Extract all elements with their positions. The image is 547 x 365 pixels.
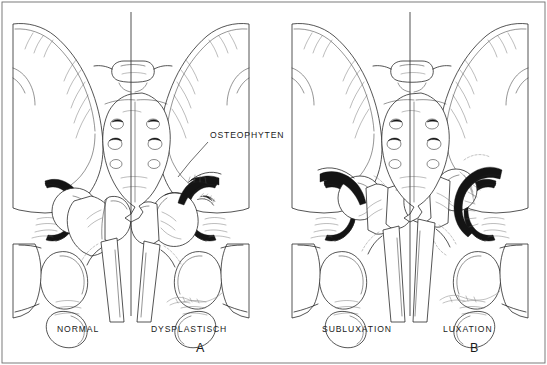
hip-dysplasia-figure: .ln{fill:none;stroke:#1c1c1c;stroke-widt… <box>0 0 547 365</box>
panel-b <box>292 12 528 348</box>
panel-letter-a: A <box>196 341 204 355</box>
label-normal: NORMAL <box>57 324 99 334</box>
annotation-osteophyten: OSTEOPHYTEN <box>210 130 284 140</box>
panel-a <box>13 12 249 348</box>
label-subluxation: SUBLUXATION <box>322 324 392 334</box>
illustration-canvas: .ln{fill:none;stroke:#1c1c1c;stroke-widt… <box>0 0 547 365</box>
label-dysplastisch: DYSPLASTISCH <box>151 324 227 334</box>
label-luxation: LUXATION <box>443 324 493 334</box>
panel-letter-b: B <box>470 341 478 355</box>
